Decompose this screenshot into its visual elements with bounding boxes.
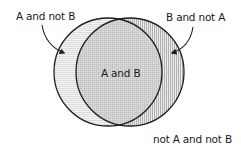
label-neither: not A and not B (153, 133, 232, 145)
label-a-not-b: A and not B (16, 10, 75, 22)
label-b-not-a: B and not A (166, 11, 226, 23)
label-a-and-b: A and B (101, 67, 140, 79)
venn-diagram: A and not B B and not A A and B not A an… (0, 0, 241, 153)
